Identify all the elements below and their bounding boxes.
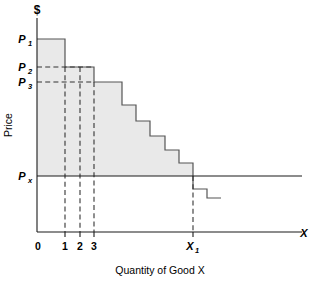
consumer-surplus-shading [37, 39, 193, 176]
y-label-p2: P [18, 61, 26, 73]
x-label-3: 3 [91, 240, 97, 252]
y-label-px: P [18, 170, 26, 182]
y-label-px-subscript: x [27, 176, 33, 185]
consumer-surplus-chart: $ P 1 P 2 P 3 P x Price 0 1 2 3 X 1 X Qu… [0, 0, 313, 284]
chart-svg: $ P 1 P 2 P 3 P x Price 0 1 2 3 X 1 X Qu… [0, 0, 313, 284]
dollar-symbol: $ [34, 3, 41, 17]
y-label-p1-subscript: 1 [28, 39, 32, 48]
y-label-p3-subscript: 3 [28, 82, 33, 91]
demand-staircase-below-price [193, 176, 221, 198]
x-label-x1: X [185, 240, 194, 252]
x-label-2: 2 [77, 240, 83, 252]
chart-caption: Quantity of Good X [115, 264, 204, 276]
x-axis-symbol: X [299, 227, 308, 239]
x-label-x1-subscript: 1 [195, 246, 199, 255]
x-label-0: 0 [35, 240, 41, 252]
y-axis-title: Price [2, 113, 14, 137]
y-label-p1: P [18, 33, 26, 45]
y-label-p3: P [18, 76, 26, 88]
y-label-p2-subscript: 2 [27, 67, 33, 76]
x-label-1: 1 [62, 240, 68, 252]
